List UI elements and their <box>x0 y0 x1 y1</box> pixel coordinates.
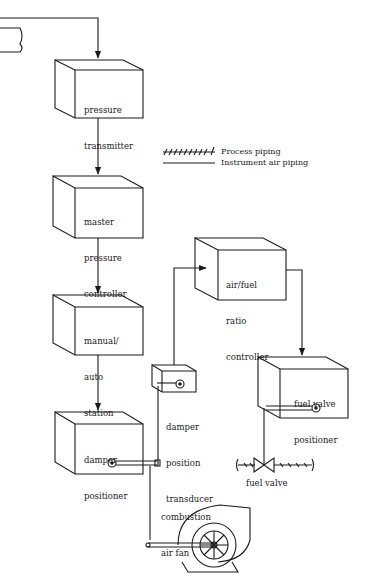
damper-positioner-label: damper positioner <box>84 430 127 514</box>
legend-process-piping: Process piping <box>221 146 281 157</box>
legend-lines <box>163 147 215 163</box>
boiler-pipe-stub <box>0 28 22 52</box>
fuel-valve-symbol <box>237 458 314 472</box>
master-pressure-controller-label: master pressure controller <box>84 192 126 312</box>
combustion-air-fan-label: combustion air fan <box>161 487 211 571</box>
legend-instrument-air-piping: Instrument air piping <box>221 157 308 168</box>
air-fuel-ratio-controller-label: air/fuel ratio controller <box>226 255 268 375</box>
fuel-valve-positioner-label: fuel valve positioner <box>294 374 337 458</box>
manual-auto-station-label: manual/ auto station <box>84 311 119 431</box>
damper-position-transducer-block <box>152 365 196 392</box>
fuel-valve-label: fuel valve <box>246 477 288 489</box>
pressure-transmitter-label: pressure transmitter <box>84 80 133 164</box>
